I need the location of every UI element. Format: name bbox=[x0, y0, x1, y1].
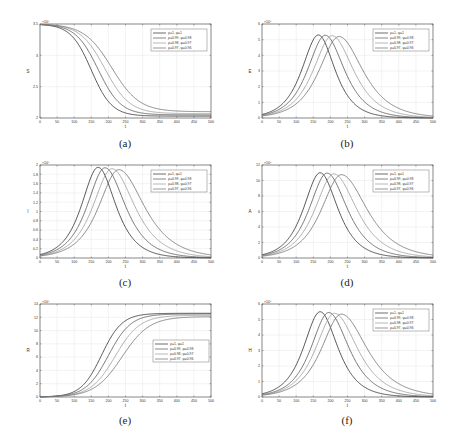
svg-text:50: 50 bbox=[55, 260, 59, 264]
svg-text:400: 400 bbox=[396, 399, 402, 403]
svg-text:500: 500 bbox=[430, 120, 436, 124]
svg-text:300: 300 bbox=[362, 399, 368, 403]
svg-text:450: 450 bbox=[413, 399, 419, 403]
svg-text:50: 50 bbox=[55, 399, 59, 403]
svg-text:1.2: 1.2 bbox=[33, 201, 38, 205]
svg-text:450: 450 bbox=[413, 120, 419, 124]
y-axis-label: I bbox=[27, 209, 28, 214]
svg-text:350: 350 bbox=[379, 399, 385, 403]
svg-text:4: 4 bbox=[258, 225, 260, 229]
chart-d: 050100150200250300350400450500024681012×… bbox=[248, 161, 436, 270]
y-axis-label: A bbox=[248, 209, 251, 214]
legend-entry: ρ=1, ψ=1 bbox=[390, 172, 404, 176]
svg-text:500: 500 bbox=[208, 260, 214, 264]
y-tick-labels: 0123456 bbox=[258, 302, 260, 399]
legend-entry: ρ=0.99, ψ=0.98 bbox=[390, 316, 414, 320]
svg-text:450: 450 bbox=[191, 399, 197, 403]
svg-text:1: 1 bbox=[258, 101, 260, 105]
svg-text:200: 200 bbox=[327, 399, 333, 403]
svg-text:50: 50 bbox=[277, 399, 281, 403]
svg-text:200: 200 bbox=[327, 260, 333, 264]
svg-text:5: 5 bbox=[258, 38, 260, 42]
y-axis-label: S bbox=[26, 69, 29, 74]
svg-text:200: 200 bbox=[105, 260, 111, 264]
svg-text:500: 500 bbox=[208, 399, 214, 403]
x-tick-labels: 050100150200250300350400450500 bbox=[39, 260, 214, 264]
y-exponent: ×10⁵ bbox=[42, 300, 50, 304]
figure-canvas: 05010015020025030035040045050022.533.5×1… bbox=[0, 0, 458, 446]
svg-text:2: 2 bbox=[36, 382, 38, 386]
legend-entry: ρ=1, ψ=1 bbox=[168, 31, 182, 35]
x-tick-labels: 050100150200250300350400450500 bbox=[261, 260, 436, 264]
svg-text:400: 400 bbox=[174, 399, 180, 403]
legend-entry: ρ=0.99, ψ=0.98 bbox=[390, 36, 414, 40]
svg-text:2: 2 bbox=[258, 241, 260, 245]
legend-entry: ρ=0.97, ψ=0.96 bbox=[170, 357, 194, 361]
svg-text:10: 10 bbox=[34, 329, 38, 333]
svg-text:350: 350 bbox=[157, 399, 163, 403]
svg-text:0: 0 bbox=[261, 260, 263, 264]
legend-entry: ρ=1, ψ=1 bbox=[390, 31, 404, 35]
legend-entry: ρ=0.99, ψ=0.98 bbox=[168, 36, 192, 40]
y-tick-labels: 00.20.40.60.811.21.41.61.82 bbox=[33, 163, 38, 260]
svg-text:300: 300 bbox=[140, 260, 146, 264]
chart-c: 05010015020025030035040045050000.20.40.6… bbox=[27, 161, 214, 270]
x-tick-labels: 050100150200250300350400450500 bbox=[261, 399, 436, 403]
caption-b: (b) bbox=[317, 137, 377, 149]
legend: ρ=1, ψ=1ρ=0.99, ψ=0.98ρ=0.98, ψ=0.97ρ=0.… bbox=[153, 340, 209, 362]
svg-text:0.6: 0.6 bbox=[33, 228, 38, 232]
legend-entry: ρ=0.97, ψ=0.96 bbox=[168, 187, 192, 191]
svg-text:50: 50 bbox=[55, 120, 59, 124]
svg-text:0: 0 bbox=[261, 399, 263, 403]
x-axis-label: t bbox=[125, 264, 127, 269]
chart-e: 0501001502002503003504004505000246810121… bbox=[26, 300, 214, 409]
legend: ρ=1, ψ=1ρ=0.99, ψ=0.98ρ=0.98, ψ=0.97ρ=0.… bbox=[373, 29, 429, 51]
x-tick-labels: 050100150200250300350400450500 bbox=[261, 120, 436, 124]
svg-text:50: 50 bbox=[277, 120, 281, 124]
svg-text:300: 300 bbox=[140, 399, 146, 403]
legend-entry: ρ=0.97, ψ=0.96 bbox=[168, 46, 192, 50]
svg-text:0.8: 0.8 bbox=[33, 219, 38, 223]
svg-text:450: 450 bbox=[413, 260, 419, 264]
legend-entry: ρ=0.98, ψ=0.97 bbox=[168, 182, 192, 186]
svg-text:100: 100 bbox=[293, 120, 299, 124]
svg-text:450: 450 bbox=[191, 120, 197, 124]
legend-entry: ρ=0.99, ψ=0.98 bbox=[390, 177, 414, 181]
svg-text:10: 10 bbox=[256, 179, 260, 183]
legend-entry: ρ=0.99, ψ=0.98 bbox=[168, 177, 192, 181]
y-exponent: ×10⁵ bbox=[264, 20, 272, 24]
x-axis-label: t bbox=[347, 264, 349, 269]
caption-c: (c) bbox=[95, 276, 155, 288]
svg-text:300: 300 bbox=[362, 260, 368, 264]
svg-text:500: 500 bbox=[430, 399, 436, 403]
svg-text:350: 350 bbox=[157, 260, 163, 264]
y-tick-labels: 024681012 bbox=[256, 163, 260, 260]
svg-text:150: 150 bbox=[310, 260, 316, 264]
svg-text:1.4: 1.4 bbox=[33, 191, 38, 195]
legend-entry: ρ=0.97, ψ=0.96 bbox=[390, 187, 414, 191]
svg-text:0: 0 bbox=[39, 120, 41, 124]
svg-text:1.6: 1.6 bbox=[33, 182, 38, 186]
x-tick-labels: 050100150200250300350400450500 bbox=[39, 399, 214, 403]
svg-text:500: 500 bbox=[208, 120, 214, 124]
legend: ρ=1, ψ=1ρ=0.99, ψ=0.98ρ=0.98, ψ=0.97ρ=0.… bbox=[373, 309, 429, 331]
y-tick-labels: 22.533.5 bbox=[33, 22, 38, 120]
legend-entry: ρ=0.98, ψ=0.97 bbox=[390, 41, 414, 45]
svg-text:200: 200 bbox=[327, 120, 333, 124]
legend-entry: ρ=0.98, ψ=0.97 bbox=[390, 321, 414, 325]
legend-entry: ρ=0.97, ψ=0.96 bbox=[390, 326, 414, 330]
svg-text:12: 12 bbox=[34, 316, 38, 320]
svg-text:100: 100 bbox=[293, 399, 299, 403]
legend: ρ=1, ψ=1ρ=0.99, ψ=0.98ρ=0.98, ψ=0.97ρ=0.… bbox=[151, 170, 207, 192]
svg-text:3: 3 bbox=[258, 349, 260, 353]
svg-text:0: 0 bbox=[39, 399, 41, 403]
svg-text:150: 150 bbox=[88, 399, 94, 403]
svg-text:4: 4 bbox=[36, 369, 38, 373]
y-axis-label: E bbox=[248, 69, 251, 74]
svg-text:6: 6 bbox=[36, 355, 38, 359]
svg-text:2: 2 bbox=[258, 364, 260, 368]
x-axis-label: t bbox=[347, 124, 349, 129]
y-exponent: ×10⁵ bbox=[264, 161, 272, 165]
svg-text:100: 100 bbox=[71, 399, 77, 403]
svg-text:400: 400 bbox=[174, 120, 180, 124]
